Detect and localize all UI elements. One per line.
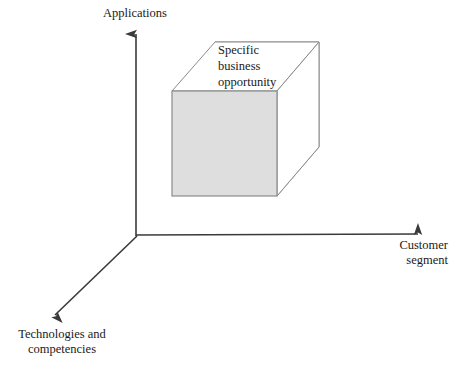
customer-segment-axis-line <box>136 234 418 235</box>
applications-axis-label: Applications <box>103 6 167 21</box>
technologies-competencies-axis-label: Technologies and competencies <box>0 327 124 357</box>
cube-label: Specific business opportunity <box>218 42 276 90</box>
diagram-canvas: Applications Customer segment Technologi… <box>0 0 455 367</box>
technologies-competencies-axis-line <box>55 236 137 315</box>
customer-segment-axis-label: Customer segment <box>326 238 448 268</box>
cube-front-face <box>172 91 277 196</box>
